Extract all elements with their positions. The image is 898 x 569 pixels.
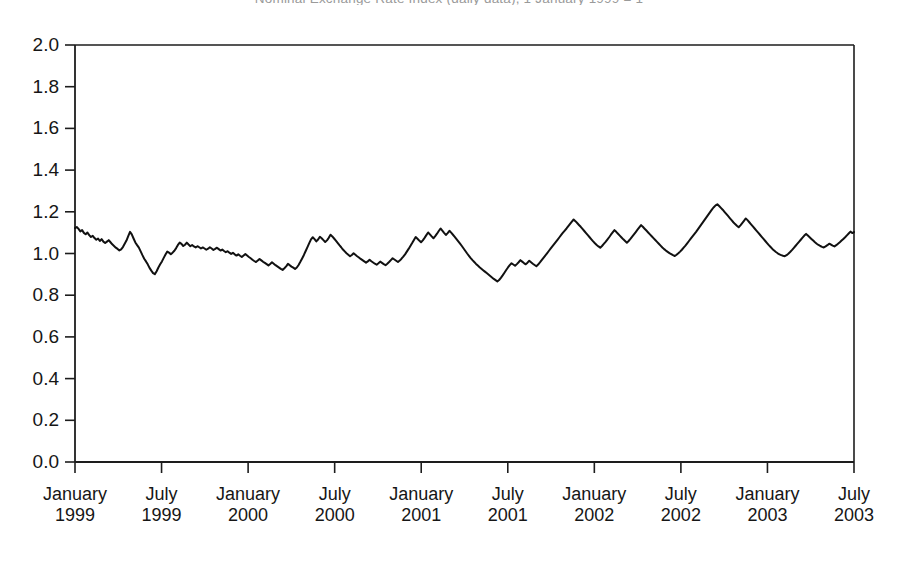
y-tick-label: 0.0: [1, 452, 59, 471]
y-tick-label: 0.6: [1, 327, 59, 346]
axis-frame: [75, 45, 854, 462]
x-tick-label-month: July: [799, 484, 898, 505]
y-tick-marks: [65, 45, 75, 462]
y-tick-label: 2.0: [1, 35, 59, 54]
y-tick-label: 0.2: [1, 410, 59, 429]
y-tick-label: 1.2: [1, 202, 59, 221]
chart-figure: Nominal Exchange Rate Index (daily data)…: [0, 0, 898, 569]
y-tick-label: 1.4: [1, 160, 59, 179]
series-line-index: [75, 204, 854, 281]
y-tick-label: 1.8: [1, 77, 59, 96]
y-tick-label: 0.4: [1, 369, 59, 388]
y-tick-label: 1.6: [1, 118, 59, 137]
y-tick-label: 0.8: [1, 285, 59, 304]
x-tick-marks: [75, 462, 854, 473]
y-tick-label: 1.0: [1, 244, 59, 263]
x-tick-label: July2003: [799, 484, 898, 526]
x-tick-label-year: 2003: [799, 505, 898, 526]
